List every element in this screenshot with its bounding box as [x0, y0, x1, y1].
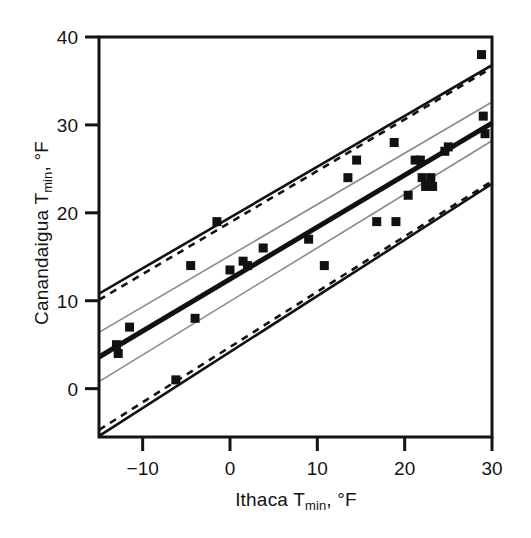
y-axis-label-main: Canandaigua T: [31, 193, 52, 325]
x-axis-label-main: Ithaca T: [235, 489, 305, 510]
data-point: [404, 191, 413, 200]
axis-ticks-layer: 403020100−100102030: [57, 27, 503, 479]
data-point: [479, 112, 488, 121]
data-point: [171, 375, 180, 384]
data-point: [444, 142, 453, 151]
y-axis-label: Canandaigua Tmin, °F: [31, 83, 61, 383]
x-axis-tick-label: 10: [307, 458, 328, 479]
y-axis-tick-label: 0: [67, 379, 78, 400]
axis-frame-layer: [99, 37, 492, 437]
data-point: [391, 217, 400, 226]
data-point: [372, 217, 381, 226]
x-axis-tick-label: 30: [481, 458, 502, 479]
prediction-band-lower-dashed: [99, 181, 492, 430]
data-point: [259, 243, 268, 252]
data-point: [191, 314, 200, 323]
data-point: [212, 217, 221, 226]
data-point: [481, 129, 490, 138]
data-point: [243, 261, 252, 270]
data-point: [477, 50, 486, 59]
data-point: [428, 182, 437, 191]
data-point: [226, 265, 235, 274]
x-axis-tick-label: 0: [225, 458, 236, 479]
prediction-band-lower-solid: [99, 184, 492, 436]
data-point: [418, 173, 427, 182]
plot-frame: [99, 37, 492, 437]
plot-canvas: 403020100−100102030: [0, 0, 531, 538]
data-point: [114, 349, 123, 358]
x-axis-tick-label: 20: [394, 458, 415, 479]
regression-line: [99, 123, 492, 357]
data-point: [112, 340, 121, 349]
y-axis-tick-label: 40: [57, 27, 78, 48]
y-axis-label-subscript: min: [40, 172, 55, 193]
data-point: [390, 138, 399, 147]
data-point: [320, 261, 329, 270]
data-point: [186, 261, 195, 270]
data-point: [352, 156, 361, 165]
x-axis-label-subscript: min: [305, 498, 326, 513]
data-point: [125, 323, 134, 332]
data-point: [416, 156, 425, 165]
x-axis-label-units: , °F: [326, 489, 357, 510]
trend-lines-layer: [99, 65, 492, 436]
data-point: [343, 173, 352, 182]
x-axis-label: Ithaca Tmin, °F: [96, 489, 496, 513]
data-point: [304, 235, 313, 244]
data-point: [426, 173, 435, 182]
x-axis-tick-label: −10: [127, 458, 159, 479]
scatter-plot-figure: 403020100−100102030 Canandaigua Tmin, °F…: [0, 0, 531, 538]
y-axis-label-units: , °F: [31, 141, 52, 172]
